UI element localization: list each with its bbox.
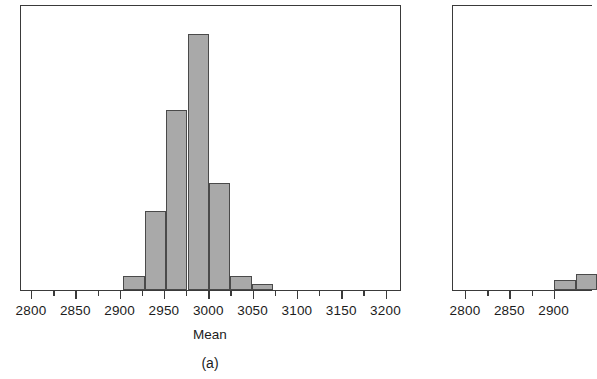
plot-frame-a xyxy=(20,5,401,291)
x-tick-label: 3000 xyxy=(193,303,224,318)
axis-tick-minor xyxy=(142,291,143,296)
axis-tick-major xyxy=(120,291,121,299)
x-axis-tick-labels-a: 2800 2850 2900 2950 3000 3050 3100 3150 … xyxy=(0,303,440,323)
x-tick-label: 3200 xyxy=(370,303,401,318)
histogram-bars-b xyxy=(453,6,592,290)
histogram-bar xyxy=(230,276,251,290)
axis-tick-major xyxy=(208,291,209,299)
axis-tick-minor xyxy=(230,291,231,296)
axis-tick-major xyxy=(465,291,466,299)
histogram-bar xyxy=(166,110,187,290)
x-tick-label: 2800 xyxy=(16,303,47,318)
histogram-bar xyxy=(554,280,575,290)
x-axis-title-a: Mean xyxy=(193,327,227,342)
panel-b: 2800 2850 2900 xyxy=(440,0,580,379)
axis-tick-minor xyxy=(186,291,187,296)
x-tick-label: 2850 xyxy=(494,303,525,318)
histogram-bar xyxy=(576,274,597,290)
x-tick-label: 3100 xyxy=(281,303,312,318)
axis-tick-minor xyxy=(275,291,276,296)
axis-tick-major xyxy=(297,291,298,299)
x-tick-label: 3050 xyxy=(237,303,268,318)
axis-tick-major xyxy=(386,291,387,299)
x-axis-tick-labels-b: 2800 2850 2900 xyxy=(440,303,580,323)
axis-tick-major xyxy=(31,291,32,299)
x-tick-label: 2800 xyxy=(450,303,481,318)
axis-tick-major xyxy=(554,291,555,299)
axis-tick-major xyxy=(164,291,165,299)
x-tick-label: 2850 xyxy=(60,303,91,318)
panel-a: 2800 2850 2900 2950 3000 3050 3100 3150 … xyxy=(0,0,440,379)
histogram-bar xyxy=(252,284,273,290)
x-tick-label: 2950 xyxy=(148,303,179,318)
axis-tick-minor xyxy=(98,291,99,296)
x-tick-label: 2900 xyxy=(104,303,135,318)
axis-tick-minor xyxy=(363,291,364,296)
histogram-bar xyxy=(123,276,144,290)
axis-tick-major xyxy=(509,291,510,299)
histogram-bar xyxy=(145,211,166,290)
axis-tick-minor xyxy=(532,291,533,296)
axis-tick-minor xyxy=(487,291,488,296)
x-axis-ticks-b xyxy=(440,291,580,301)
plot-frame-b xyxy=(452,5,592,291)
axis-tick-major xyxy=(75,291,76,299)
x-tick-label: 3150 xyxy=(326,303,357,318)
panel-caption-a: (a) xyxy=(201,355,218,371)
histogram-bar xyxy=(209,183,230,290)
x-tick-label: 2900 xyxy=(538,303,569,318)
histogram-bars-a xyxy=(21,6,400,290)
axis-tick-major xyxy=(253,291,254,299)
axis-tick-minor xyxy=(53,291,54,296)
axis-tick-minor xyxy=(319,291,320,296)
axis-tick-major xyxy=(341,291,342,299)
x-axis-ticks-a xyxy=(0,291,440,301)
histogram-bar xyxy=(188,34,209,290)
